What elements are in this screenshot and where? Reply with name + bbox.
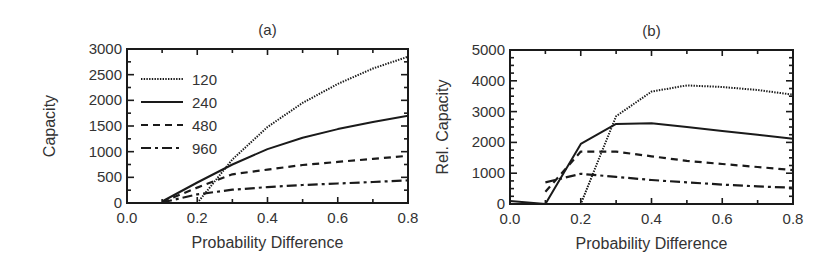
y-tick-label: 5000 xyxy=(472,41,505,58)
y-tick-label: 500 xyxy=(97,168,122,185)
chart-panel-b: (b)0.00.20.40.60.8010002000300040005000P… xyxy=(434,22,803,252)
chart-panel-a: (a)0.00.20.40.60.80500100015002000250030… xyxy=(41,21,418,251)
panel-title: (b) xyxy=(642,22,660,39)
y-tick-label: 1000 xyxy=(472,164,505,181)
legend: 120240480960 xyxy=(141,71,217,157)
y-tick-label: 1000 xyxy=(89,143,122,160)
y-axis-label: Capacity xyxy=(41,95,58,157)
x-tick-label: 0.8 xyxy=(783,210,804,227)
panel-title: (a) xyxy=(258,21,276,38)
series-line-240 xyxy=(510,123,793,204)
y-axis-label: Rel. Capacity xyxy=(434,79,451,174)
y-tick-label: 3000 xyxy=(472,103,505,120)
y-tick-label: 4000 xyxy=(472,72,505,89)
x-axis-label: Probability Difference xyxy=(576,235,728,252)
x-tick-label: 0.4 xyxy=(641,210,662,227)
x-axis-label: Probability Difference xyxy=(192,234,344,251)
y-tick-label: 2000 xyxy=(89,91,122,108)
series-line-960 xyxy=(545,174,793,188)
y-tick-label: 3000 xyxy=(89,40,122,57)
legend-label: 240 xyxy=(192,94,217,111)
legend-label: 960 xyxy=(192,140,217,157)
series-line-120 xyxy=(510,85,793,204)
x-tick-label: 0.0 xyxy=(500,210,521,227)
series-group xyxy=(510,85,793,204)
x-tick-label: 0.0 xyxy=(117,209,138,226)
x-tick-label: 0.6 xyxy=(327,209,348,226)
x-tick-label: 0.6 xyxy=(712,210,733,227)
y-tick-label: 2500 xyxy=(89,66,122,83)
legend-label: 480 xyxy=(192,117,217,134)
x-tick-label: 0.8 xyxy=(398,209,419,226)
y-tick-label: 0 xyxy=(114,194,122,211)
y-tick-label: 1500 xyxy=(89,117,122,134)
y-tick-label: 0 xyxy=(497,195,505,212)
legend-label: 120 xyxy=(192,71,217,88)
x-tick-label: 0.2 xyxy=(187,209,208,226)
x-tick-label: 0.4 xyxy=(257,209,278,226)
series-line-960 xyxy=(162,180,408,202)
y-tick-label: 2000 xyxy=(472,133,505,150)
figure: (a)0.00.20.40.60.80500100015002000250030… xyxy=(0,0,839,270)
x-tick-label: 0.2 xyxy=(570,210,591,227)
